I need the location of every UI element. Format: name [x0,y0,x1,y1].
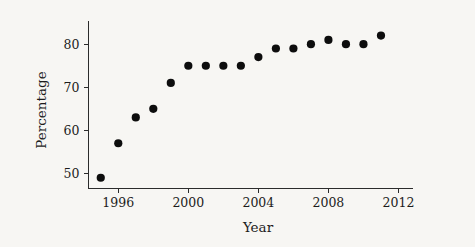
data-point [237,62,245,70]
data-point [254,53,262,61]
x-axis-title: Year [242,219,274,235]
data-point [307,40,315,48]
y-tick-label: 80 [64,37,80,52]
data-point [342,40,350,48]
data-point [377,31,385,39]
x-tick-label: 2008 [313,195,345,210]
scatter-plot-svg: 50607080 19962000200420082012 Year Perce… [0,0,475,247]
data-point [97,174,105,182]
data-point [114,139,122,147]
x-axis-ticks: 19962000200420082012 [102,189,414,210]
y-tick-label: 50 [64,166,80,181]
data-point [202,62,210,70]
x-tick-label: 2000 [172,195,204,210]
data-points [97,31,385,181]
chart-figure: 50607080 19962000200420082012 Year Perce… [0,0,475,247]
y-tick-label: 60 [64,123,80,138]
x-tick-label: 2012 [383,195,415,210]
data-point [289,44,297,52]
data-point [167,79,175,87]
x-tick-label: 2004 [242,195,274,210]
data-point [132,113,140,121]
data-point [272,44,280,52]
data-point [324,36,332,44]
data-point [149,105,157,113]
y-axis-title: Percentage [33,71,49,148]
data-point [219,62,227,70]
y-axis-ticks: 50607080 [64,37,89,181]
data-point [359,40,367,48]
data-point [184,62,192,70]
y-tick-label: 70 [64,80,80,95]
x-tick-label: 1996 [102,195,134,210]
